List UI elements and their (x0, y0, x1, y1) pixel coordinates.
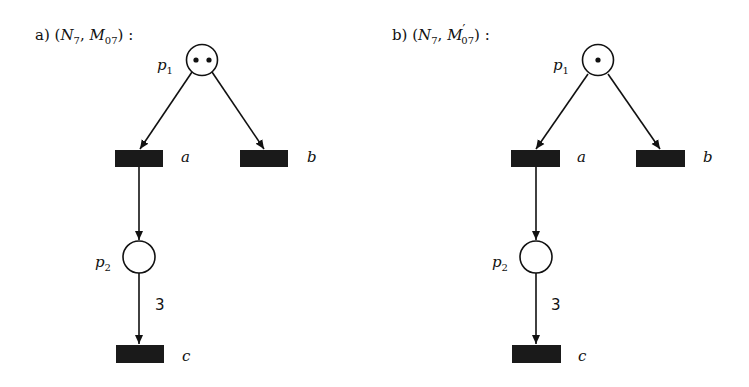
petri-net-a-graph (0, 0, 374, 387)
label-p2: p2 (95, 253, 111, 273)
transition-c (512, 345, 561, 363)
place-subscript: 1 (167, 65, 173, 76)
diagram-title: b) (N7, M′07) : (392, 22, 490, 46)
net-subscript: 7 (74, 35, 80, 46)
title-colon: : (485, 26, 490, 44)
place-name: p (553, 56, 563, 74)
petri-net-a: a) (N7, M07) : p1 p2 a b c 3 (0, 0, 374, 387)
place-p2 (520, 241, 552, 273)
transition-c (116, 345, 164, 363)
token (595, 57, 600, 62)
marking-subscript: 07 (105, 35, 118, 46)
token (193, 57, 198, 62)
label-a: a (181, 148, 190, 166)
diagram-title: a) (N7, M07) : (35, 22, 133, 46)
arc-p1-a (140, 72, 192, 149)
arc-p1-a (536, 74, 588, 149)
place-subscript: 2 (105, 262, 111, 273)
transition-b (636, 150, 685, 167)
label-p1: p1 (553, 56, 569, 76)
place-p1 (187, 45, 218, 76)
label-p2: p2 (492, 253, 508, 273)
arc-p1-b (212, 72, 264, 149)
label-c: c (182, 347, 190, 365)
place-name: p (492, 253, 502, 271)
petri-net-b: b) (N7, M′07) : p1 p2 a b c 3 (375, 0, 749, 387)
net-name: N (418, 26, 431, 44)
marking-name: M (89, 26, 104, 44)
marking-subscript: 07 (461, 35, 474, 46)
place-name: p (157, 56, 167, 74)
place-subscript: 1 (563, 65, 569, 76)
net-name: N (60, 26, 73, 44)
diagram-label: b) (392, 26, 407, 44)
transition-b (240, 150, 288, 167)
label-c: c (578, 347, 586, 365)
arc-weight: 3 (155, 296, 165, 314)
label-b: b (307, 148, 317, 166)
label-p1: p1 (157, 56, 173, 76)
place-p2 (123, 241, 155, 273)
diagram-label: a) (35, 26, 50, 44)
token (206, 57, 211, 62)
transition-a (511, 150, 560, 167)
arc-p1-b (608, 74, 660, 149)
transition-a (115, 150, 163, 167)
place-name: p (95, 253, 105, 271)
place-subscript: 2 (502, 262, 508, 273)
label-a: a (577, 148, 586, 166)
arc-weight: 3 (551, 296, 561, 314)
title-colon: : (128, 26, 133, 44)
net-subscript: 7 (431, 35, 437, 46)
label-b: b (703, 148, 713, 166)
